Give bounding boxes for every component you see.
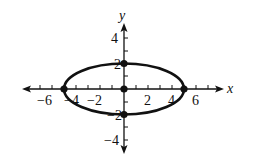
x-axis-label: x [226,81,234,96]
x-tick-label: −6 [37,93,52,108]
y-tick-label: 2 [114,57,121,72]
x-tick-label: 2 [144,93,151,108]
y-tick-label: −2 [107,108,122,123]
co-vertex-top-point [120,60,127,67]
vertex-right-point [180,85,187,92]
vertex-left-point [60,85,67,92]
x-tick-label: −2 [87,93,102,108]
y-axis-label: y [117,8,126,23]
y-tick-label: 4 [111,31,118,46]
y-tick-label: −4 [104,133,119,148]
x-tick-label: −4 [64,93,79,108]
center-point [120,85,127,92]
x-tick-label: 6 [192,93,199,108]
x-tick-label: 4 [168,93,175,108]
ellipse-graph: x y −6 −4 −2 2 4 6 4 2 −2 −4 [0,0,254,168]
